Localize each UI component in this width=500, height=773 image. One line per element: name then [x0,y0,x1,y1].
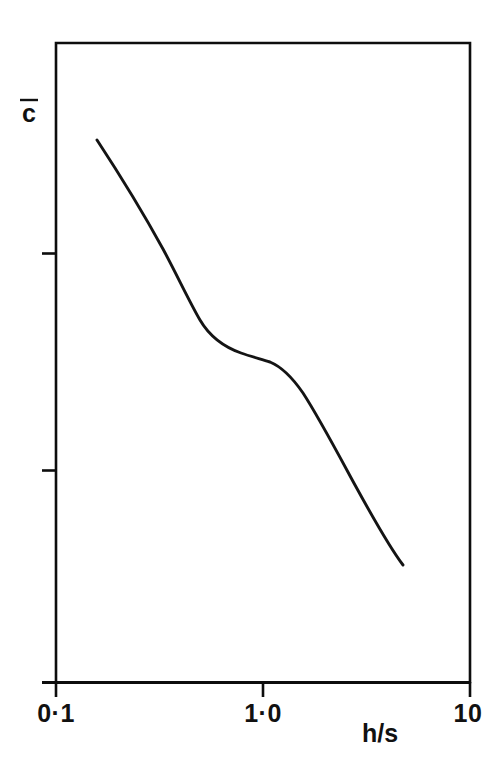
x-tick-label-0-1: 0·1 [37,699,75,727]
x-tick-label-10: 10 [454,699,483,727]
x-tick-label-1-0: 1·0 [244,699,282,727]
chart-background [0,0,500,773]
chart-svg: 0·1 1·0 10 h/s c [0,0,500,773]
y-axis-title: c [20,99,38,127]
chart-figure: 0·1 1·0 10 h/s c [0,0,500,773]
y-axis-title-glyph: c [22,99,36,127]
x-axis-title: h/s [362,719,398,747]
